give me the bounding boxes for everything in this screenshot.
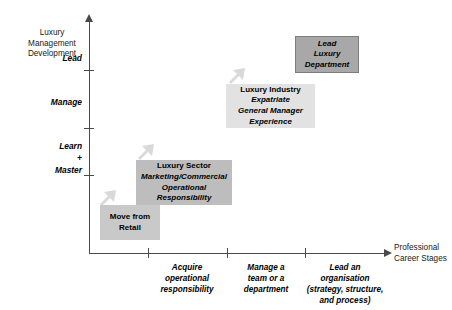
y-level-manage: Manage (12, 96, 82, 108)
step-line: Responsibility (157, 193, 212, 204)
step-box-luxury-sector: Luxury Sector Marketing/Commercial Opera… (136, 160, 232, 205)
step-line: Luxury Industry (240, 85, 300, 96)
y-level-learn-master: Learn + Master (12, 140, 82, 177)
step-box-move-from-retail: Move from Retail (100, 205, 160, 240)
step-line: Lead (318, 39, 337, 50)
x-axis-arrow-icon (384, 249, 392, 257)
x-stage-acquire: Acquire operational responsibility (148, 262, 226, 295)
x-stage-manage-team: Manage a team or a department (228, 262, 304, 295)
step-line: Move from (110, 212, 150, 223)
step-line: Operational (162, 183, 206, 194)
y-axis-arrow-icon (85, 14, 93, 22)
x-stage-lead-organisation: Lead an organisation (strategy, structur… (303, 262, 387, 306)
y-axis-line (89, 22, 90, 254)
y-tick-3 (84, 175, 94, 176)
career-staircase-diagram: Luxury Management Development Profession… (0, 0, 452, 310)
step-line: Experience (249, 117, 292, 128)
x-axis-line (89, 253, 386, 254)
x-tick-2 (227, 248, 228, 258)
step-line: Department (305, 60, 349, 71)
y-tick-1 (84, 70, 94, 71)
step-line: Expatriate (251, 95, 290, 106)
y-level-lead: Lead (12, 52, 82, 64)
step-line: Luxury Sector (157, 161, 211, 172)
y-tick-2 (84, 128, 94, 129)
x-axis-title: Professional Career Stages (394, 243, 452, 264)
step-box-lead-luxury-department: Lead Luxury Department (295, 36, 359, 73)
x-tick-3 (305, 248, 306, 258)
step-line: Marketing/Commercial (141, 172, 227, 183)
step-line: Luxury (314, 49, 341, 60)
step-line: Retail (119, 223, 141, 234)
step-line: General Manager (238, 106, 303, 117)
x-tick-1 (148, 248, 149, 258)
step-box-luxury-industry: Luxury Industry Expatriate General Manag… (226, 84, 315, 128)
